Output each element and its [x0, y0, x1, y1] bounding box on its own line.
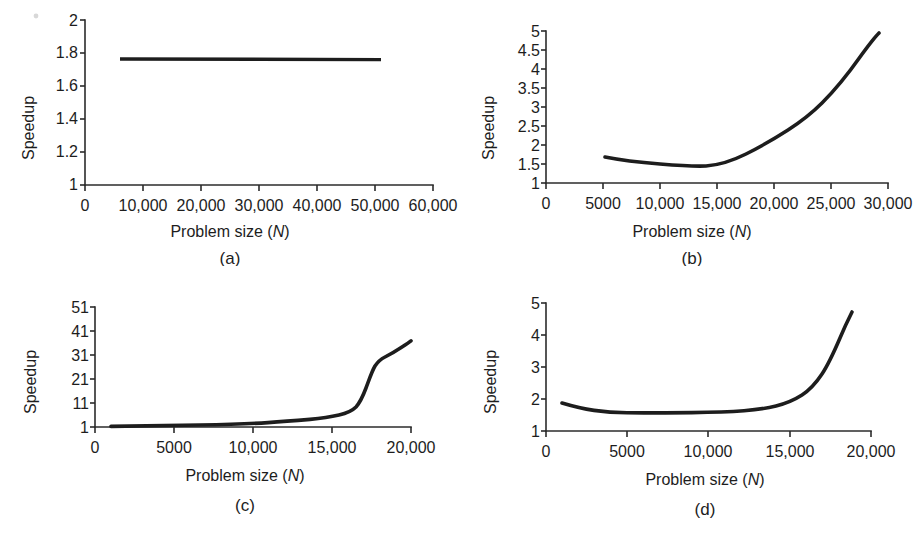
- x-tick-label-c-4: 20,000: [387, 439, 436, 456]
- x-tick-label-b-0: 0: [542, 195, 551, 212]
- chart-panel-a: Speedup 1 1.2 1.4 1.6 1.8 2: [0, 0, 460, 266]
- scan-speck: [34, 14, 39, 19]
- x-tick-label-a-5: 50,000: [351, 197, 400, 214]
- y-tick-label-c-5: 51: [71, 299, 89, 316]
- y-tick-label-d-4: 5: [531, 295, 540, 312]
- x-tick-label-a-3: 30,000: [235, 197, 284, 214]
- x-axis-title-b: Problem size (N): [632, 223, 751, 240]
- chart-panel-d: Speedup 1 2 3 4 5 0 50: [460, 266, 920, 533]
- y-tick-label-b-1: 1.5: [518, 156, 540, 173]
- x-ticks-c: [95, 427, 411, 433]
- y-tick-label-a-0: 1: [69, 176, 78, 193]
- chart-svg-d: Speedup 1 2 3 4 5 0 50: [460, 266, 920, 533]
- y-tick-label-a-5: 2: [69, 12, 78, 29]
- y-tick-label-b-5: 3.5: [518, 80, 540, 97]
- y-tick-label-c-0: 1: [80, 419, 89, 436]
- chart-panel-b: Speedup 1 1.5 2 2.5 3 3.5 4 4.5 5: [460, 0, 920, 266]
- y-tick-label-c-4: 41: [71, 323, 89, 340]
- x-tick-label-b-4: 20,000: [750, 195, 799, 212]
- x-ticks-a: [85, 185, 433, 191]
- y-tick-label-b-6: 4: [531, 61, 540, 78]
- y-axis-title-a: Speedup: [20, 96, 37, 160]
- y-tick-label-c-2: 21: [71, 371, 89, 388]
- y-tick-label-d-3: 4: [531, 327, 540, 344]
- x-tick-label-b-6: 30,000: [864, 195, 913, 212]
- y-tick-label-b-4: 3: [531, 99, 540, 116]
- x-tick-label-a-2: 20,000: [177, 197, 226, 214]
- chart-svg-a: Speedup 1 1.2 1.4 1.6 1.8 2: [0, 0, 460, 266]
- x-axis-title-c: Problem size (N): [185, 467, 304, 484]
- y-axis-title-d: Speedup: [482, 350, 499, 414]
- y-tick-label-a-3: 1.6: [56, 77, 78, 94]
- figure-panel-grid: Speedup 1 1.2 1.4 1.6 1.8 2: [0, 0, 920, 533]
- x-tick-label-b-1: 5000: [585, 195, 621, 212]
- x-tick-label-a-1: 10,000: [119, 197, 168, 214]
- y-tick-label-c-3: 31: [71, 347, 89, 364]
- y-tick-label-d-1: 2: [531, 391, 540, 408]
- y-axis-title-b: Speedup: [480, 96, 497, 160]
- x-ticks-b: [546, 183, 888, 189]
- y-tick-label-b-0: 1: [531, 175, 540, 192]
- x-tick-label-c-2: 10,000: [229, 439, 278, 456]
- panel-caption-d: (d): [695, 500, 716, 519]
- x-tick-label-a-6: 60,000: [409, 197, 458, 214]
- x-tick-label-d-0: 0: [542, 443, 551, 460]
- x-tick-label-c-1: 5000: [156, 439, 192, 456]
- x-tick-label-b-2: 10,000: [636, 195, 685, 212]
- y-tick-label-b-2: 2: [531, 137, 540, 154]
- y-axis-title-c: Speedup: [22, 350, 39, 414]
- y-tick-label-a-4: 1.8: [56, 44, 78, 61]
- x-tick-label-a-0: 0: [81, 197, 90, 214]
- y-tick-label-a-2: 1.4: [56, 110, 78, 127]
- y-tick-label-d-2: 3: [531, 359, 540, 376]
- x-axis-title-a: Problem size (N): [170, 223, 289, 240]
- x-tick-label-d-4: 20,000: [847, 443, 896, 460]
- chart-svg-c: Speedup 1 11 21 31 41 51: [0, 266, 460, 533]
- panel-caption-c: (c): [235, 496, 255, 515]
- x-tick-label-d-1: 5000: [609, 443, 645, 460]
- x-tick-label-b-3: 15,000: [693, 195, 742, 212]
- y-tick-label-b-3: 2.5: [518, 118, 540, 135]
- y-tick-label-b-8: 5: [531, 23, 540, 40]
- x-tick-label-b-5: 25,000: [807, 195, 856, 212]
- data-line-b: [605, 33, 879, 166]
- x-tick-label-d-2: 10,000: [684, 443, 733, 460]
- panel-caption-a: (a): [220, 249, 241, 266]
- x-ticks-d: [546, 431, 871, 437]
- y-tick-label-a-1: 1.2: [56, 143, 78, 160]
- data-line-d: [562, 312, 852, 413]
- x-tick-label-d-3: 15,000: [766, 443, 815, 460]
- chart-panel-c: Speedup 1 11 21 31 41 51: [0, 266, 460, 533]
- data-line-a: [120, 59, 381, 60]
- y-tick-label-d-0: 1: [531, 423, 540, 440]
- y-tick-label-b-7: 4.5: [518, 42, 540, 59]
- panel-caption-b: (b): [682, 249, 703, 266]
- data-line-c: [111, 341, 411, 427]
- x-tick-label-c-3: 15,000: [308, 439, 357, 456]
- y-tick-label-c-1: 11: [72, 395, 89, 412]
- chart-svg-b: Speedup 1 1.5 2 2.5 3 3.5 4 4.5 5: [460, 0, 920, 266]
- x-axis-title-d: Problem size (N): [645, 471, 764, 488]
- x-tick-label-a-4: 40,000: [293, 197, 342, 214]
- x-tick-label-c-0: 0: [91, 439, 100, 456]
